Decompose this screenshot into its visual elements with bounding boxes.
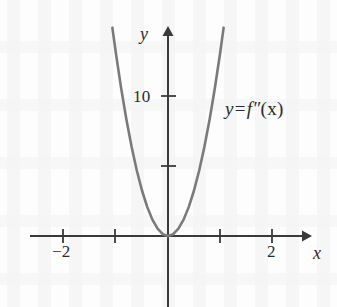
curve-label-function: f″	[247, 98, 261, 119]
curve-equation-label: y=f″(x)	[225, 99, 284, 118]
figure-container: −2 2 10 y x y=f″(x)	[0, 0, 337, 307]
y-axis-arrowhead	[163, 26, 174, 36]
curve-label-equals: =	[234, 98, 247, 119]
x-axis-arrowhead	[302, 231, 312, 242]
x-axis-label: x	[313, 244, 321, 262]
y-axis-label: y	[140, 25, 148, 43]
curve-label-argument: (x)	[261, 98, 284, 119]
graph-canvas	[0, 0, 337, 307]
y-tick-label-10: 10	[133, 88, 150, 105]
x-tick-label-pos2: 2	[267, 243, 276, 260]
curve-label-y: y	[225, 98, 234, 119]
x-tick-label-neg2: −2	[52, 243, 71, 260]
